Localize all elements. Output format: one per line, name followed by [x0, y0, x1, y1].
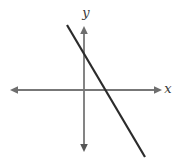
x-axis-label: x: [164, 81, 172, 96]
y-axis-top-arrowhead-icon: [80, 26, 88, 34]
y-axis: [80, 26, 88, 152]
plotted-line-series: [67, 25, 145, 157]
x-axis: [10, 86, 162, 94]
linear-function-line: [67, 25, 145, 157]
y-axis-bottom-arrowhead-icon: [80, 144, 88, 152]
y-axis-label: y: [81, 5, 90, 20]
x-axis-left-arrowhead-icon: [10, 86, 18, 94]
graph-canvas: x y: [0, 0, 177, 162]
coordinate-graph-figure: x y: [0, 0, 177, 162]
x-axis-right-arrowhead-icon: [154, 86, 162, 94]
